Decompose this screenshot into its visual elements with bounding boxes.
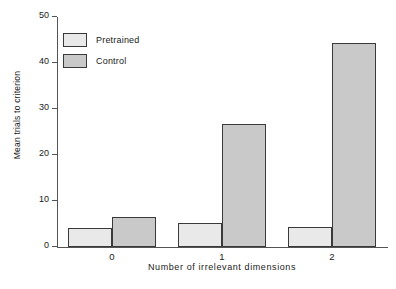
y-axis-tick: 30 (52, 108, 57, 109)
legend-item-control: Control (63, 52, 140, 69)
x-axis-tick-label: 0 (109, 251, 114, 262)
y-axis-tick: 20 (52, 154, 57, 155)
bar-pretrained-1 (178, 223, 222, 247)
bar-chart-figure: Mean trials to criterion 01020304050012 … (0, 0, 396, 289)
x-axis-title: Number of irrelevant dimensions (57, 262, 387, 272)
y-axis-tick-label: 50 (39, 10, 49, 20)
bar-pretrained-0 (68, 228, 112, 247)
x-axis-line (57, 247, 388, 248)
chart-legend: Pretrained Control (63, 31, 140, 73)
legend-label-control: Control (96, 56, 126, 66)
x-axis-tick-label: 1 (219, 251, 224, 262)
legend-label-pretrained: Pretrained (96, 35, 140, 45)
x-axis-tick-label: 2 (329, 251, 334, 262)
legend-swatch-pretrained (63, 33, 87, 47)
y-axis-tick-label: 0 (44, 240, 49, 250)
y-axis-tick: 50 (52, 16, 57, 17)
y-axis-tick-label: 30 (39, 102, 49, 112)
y-axis-tick: 40 (52, 62, 57, 63)
y-axis-tick-label: 40 (39, 56, 49, 66)
y-axis-tick-label: 20 (39, 148, 49, 158)
bar-control-2 (332, 43, 376, 247)
y-axis-line (57, 17, 58, 248)
legend-swatch-control (63, 54, 87, 68)
bar-pretrained-2 (288, 227, 332, 247)
y-axis-tick: 10 (52, 200, 57, 201)
y-axis-tick: 0 (52, 246, 57, 247)
bar-control-1 (222, 124, 266, 247)
y-axis-title: Mean trials to criterion (12, 30, 22, 200)
y-axis-tick-label: 10 (39, 194, 49, 204)
legend-item-pretrained: Pretrained (63, 31, 140, 48)
bar-control-0 (112, 217, 156, 247)
